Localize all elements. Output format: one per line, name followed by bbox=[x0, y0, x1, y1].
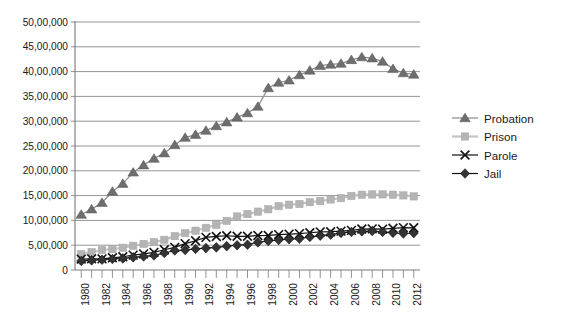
marker-square bbox=[202, 224, 209, 231]
y-tick-label: 10,00,000 bbox=[23, 215, 69, 226]
marker-square bbox=[358, 191, 365, 198]
x-tick-label: 1982 bbox=[101, 283, 112, 306]
legend-label: Prison bbox=[484, 130, 517, 143]
marker-square bbox=[379, 191, 386, 198]
marker-square bbox=[109, 245, 116, 252]
x-tick-label: 1988 bbox=[163, 283, 174, 306]
marker-square bbox=[161, 236, 168, 243]
y-tick-label: 50,00,000 bbox=[23, 17, 69, 28]
marker-square bbox=[296, 200, 303, 207]
marker-square bbox=[223, 217, 230, 224]
x-tick-label: 1998 bbox=[267, 283, 278, 306]
chart-container: 05,00,00010,00,00015,00,00020,00,00025,0… bbox=[0, 0, 566, 322]
y-tick-label: 30,00,000 bbox=[23, 116, 69, 127]
marker-square bbox=[171, 232, 178, 239]
y-tick-label: 20,00,000 bbox=[23, 165, 69, 176]
marker-square bbox=[306, 198, 313, 205]
legend-label: Probation bbox=[484, 112, 534, 125]
marker-square bbox=[461, 133, 468, 140]
marker-square bbox=[389, 191, 396, 198]
x-tick-label: 2012 bbox=[412, 283, 423, 306]
y-tick-label: 0 bbox=[62, 265, 68, 276]
x-tick-label: 1990 bbox=[184, 283, 195, 306]
marker-square bbox=[181, 229, 188, 236]
marker-square bbox=[119, 244, 126, 251]
x-tick-label: 2008 bbox=[371, 283, 382, 306]
y-tick-label: 35,00,000 bbox=[23, 91, 69, 102]
marker-square bbox=[400, 192, 407, 199]
x-tick-label: 2004 bbox=[329, 283, 340, 306]
x-tick-label: 1986 bbox=[142, 283, 153, 306]
marker-square bbox=[254, 208, 261, 215]
y-tick-label: 45,00,000 bbox=[23, 41, 69, 52]
marker-square bbox=[213, 221, 220, 228]
y-tick-label: 25,00,000 bbox=[23, 141, 69, 152]
marker-square bbox=[265, 206, 272, 213]
marker-square bbox=[130, 242, 137, 249]
marker-square bbox=[275, 202, 282, 209]
x-tick-label: 2002 bbox=[308, 283, 319, 306]
x-tick-label: 2010 bbox=[391, 283, 402, 306]
y-tick-label: 40,00,000 bbox=[23, 66, 69, 77]
x-tick-label: 1992 bbox=[204, 283, 215, 306]
marker-square bbox=[317, 197, 324, 204]
marker-square bbox=[410, 193, 417, 200]
marker-square bbox=[150, 238, 157, 245]
x-tick-label: 2006 bbox=[350, 283, 361, 306]
marker-square bbox=[327, 196, 334, 203]
marker-square bbox=[192, 227, 199, 234]
legend-label: Jail bbox=[484, 167, 501, 180]
marker-square bbox=[233, 213, 240, 220]
marker-square bbox=[98, 246, 105, 253]
marker-square bbox=[88, 248, 95, 255]
y-tick-label: 5,00,000 bbox=[28, 240, 68, 251]
chart-background bbox=[0, 0, 566, 322]
x-tick-label: 1996 bbox=[246, 283, 257, 306]
x-tick-label: 2000 bbox=[288, 283, 299, 306]
marker-square bbox=[244, 210, 251, 217]
marker-square bbox=[348, 192, 355, 199]
marker-square bbox=[337, 194, 344, 201]
marker-square bbox=[140, 240, 147, 247]
marker-square bbox=[285, 201, 292, 208]
y-tick-label: 15,00,000 bbox=[23, 190, 69, 201]
x-tick-label: 1984 bbox=[121, 283, 132, 306]
x-tick-label: 1994 bbox=[225, 283, 236, 306]
legend-label: Parole bbox=[484, 149, 518, 162]
x-tick-label: 1980 bbox=[80, 283, 91, 306]
correctional-population-line-chart: 05,00,00010,00,00015,00,00020,00,00025,0… bbox=[0, 0, 566, 322]
marker-square bbox=[369, 191, 376, 198]
